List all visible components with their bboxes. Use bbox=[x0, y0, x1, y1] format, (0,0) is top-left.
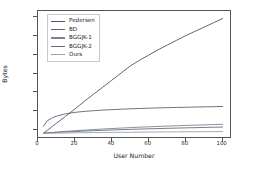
x-tick-mark bbox=[148, 138, 149, 142]
legend-item[interactable]: BD bbox=[51, 25, 95, 33]
x-axis-label: User Number bbox=[114, 152, 155, 159]
x-tick-mark bbox=[74, 138, 75, 142]
y-tick-mark bbox=[33, 110, 37, 111]
legend: PedersenBDBGGJK-1BGGJK-2Ours bbox=[47, 14, 100, 62]
legend-line-swatch bbox=[51, 46, 65, 47]
y-tick-mark bbox=[33, 91, 37, 92]
series-line-bd bbox=[44, 106, 223, 126]
x-tick-mark bbox=[111, 138, 112, 142]
legend-item[interactable]: BGGJK-1 bbox=[51, 34, 95, 42]
figure: Bytes User Number 1081012101610201024102… bbox=[0, 0, 257, 173]
legend-label: Pedersen bbox=[69, 18, 95, 24]
legend-line-swatch bbox=[51, 29, 65, 30]
x-tick-mark bbox=[185, 138, 186, 142]
x-tick-mark bbox=[222, 138, 223, 142]
legend-label: BD bbox=[69, 27, 77, 33]
legend-label: BGGJK-2 bbox=[69, 44, 92, 50]
legend-line-swatch bbox=[51, 37, 65, 38]
y-tick-mark bbox=[33, 16, 37, 17]
y-tick-mark bbox=[33, 73, 37, 74]
y-tick-mark bbox=[33, 129, 37, 130]
legend-item[interactable]: Ours bbox=[51, 51, 95, 59]
y-axis-label: Bytes bbox=[1, 65, 8, 82]
legend-label: BGGJK-1 bbox=[69, 35, 92, 41]
x-tick-mark bbox=[37, 138, 38, 142]
legend-line-swatch bbox=[51, 54, 65, 55]
legend-label: Ours bbox=[69, 52, 82, 58]
y-tick-mark bbox=[33, 54, 37, 55]
legend-item[interactable]: BGGJK-2 bbox=[51, 42, 95, 50]
y-tick-mark bbox=[33, 35, 37, 36]
legend-item[interactable]: Pedersen bbox=[51, 17, 95, 25]
legend-line-swatch bbox=[51, 21, 65, 22]
